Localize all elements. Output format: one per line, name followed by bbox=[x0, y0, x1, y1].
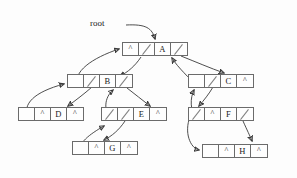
node-E-cell-left[interactable] bbox=[102, 108, 118, 120]
node-D-cell-link1[interactable]: ^ bbox=[35, 108, 51, 120]
node-G-cell-link1[interactable]: ^ bbox=[89, 142, 105, 154]
node-F-cell-right[interactable] bbox=[237, 108, 253, 120]
node-G-cell-left[interactable] bbox=[73, 142, 89, 154]
node-C-cell-value: C bbox=[221, 75, 237, 87]
node-B-cell-right[interactable] bbox=[116, 75, 132, 87]
node-A-cell-right[interactable] bbox=[171, 43, 187, 55]
root-label: root bbox=[90, 18, 105, 28]
node-D-cell-left[interactable] bbox=[19, 108, 35, 120]
node-H-cell-left[interactable] bbox=[203, 145, 219, 157]
node-A-cell-left[interactable]: ^ bbox=[123, 43, 139, 55]
node-H-cell-link1[interactable]: ^ bbox=[219, 145, 235, 157]
node-B-cell-left[interactable] bbox=[68, 75, 84, 87]
edge-A-to-C bbox=[181, 56, 224, 73]
edge-C-to-F bbox=[199, 87, 213, 106]
node-D-cell-value: D bbox=[51, 108, 67, 120]
node-B[interactable]: B bbox=[67, 74, 133, 88]
node-E-cell-right[interactable]: ^ bbox=[150, 108, 166, 120]
node-G-cell-value: G bbox=[105, 142, 121, 154]
node-F-cell-left[interactable] bbox=[189, 108, 205, 120]
node-D-cell-right[interactable]: ^ bbox=[67, 108, 83, 120]
edge-B-to-D bbox=[68, 87, 92, 106]
node-E-cell-link1[interactable] bbox=[118, 108, 134, 120]
edge-F-to-H bbox=[243, 121, 252, 141]
node-C-cell-left[interactable] bbox=[189, 75, 205, 87]
node-H-cell-value: H bbox=[235, 145, 251, 157]
node-H[interactable]: ^ H ^ bbox=[202, 144, 268, 158]
node-H-cell-right[interactable]: ^ bbox=[251, 145, 267, 157]
node-B-cell-value: B bbox=[100, 75, 116, 87]
node-D[interactable]: ^ D ^ bbox=[18, 107, 84, 121]
edge-E-to-G bbox=[104, 121, 125, 140]
node-F[interactable]: ^ F bbox=[188, 107, 254, 121]
node-E[interactable]: E ^ bbox=[101, 107, 167, 121]
node-F-cell-link1[interactable]: ^ bbox=[205, 108, 221, 120]
node-F-cell-value: F bbox=[221, 108, 237, 120]
edge-root-to-A bbox=[126, 25, 155, 39]
node-G[interactable]: ^ G ^ bbox=[72, 141, 138, 155]
node-E-cell-value: E bbox=[134, 108, 150, 120]
node-C-cell-right[interactable]: ^ bbox=[237, 75, 253, 87]
node-C-cell-link1[interactable] bbox=[205, 75, 221, 87]
node-C[interactable]: C ^ bbox=[188, 74, 254, 88]
node-G-cell-right[interactable]: ^ bbox=[121, 142, 137, 154]
node-B-cell-link1[interactable] bbox=[84, 75, 100, 87]
node-A-cell-link1[interactable] bbox=[139, 43, 155, 55]
node-A-cell-value: A bbox=[155, 43, 171, 55]
node-A[interactable]: ^ A bbox=[122, 42, 188, 56]
edge-B-to-E bbox=[127, 88, 150, 106]
edge-H-to-F bbox=[188, 117, 199, 150]
